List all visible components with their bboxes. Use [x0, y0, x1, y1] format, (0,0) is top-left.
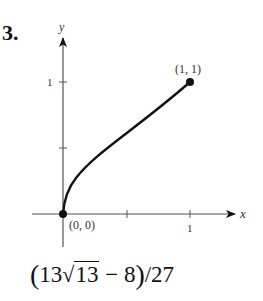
graph: x y 1 1 (0, 0) (1, 1) — [0, 0, 263, 250]
radical-sign: √ — [62, 262, 74, 287]
label-end: (1, 1) — [175, 62, 201, 76]
arc-length-answer: (13√13 − 8)/27 — [30, 259, 174, 291]
open-paren: ( — [30, 259, 39, 290]
x-axis-label: x — [239, 206, 246, 221]
point-end — [186, 78, 194, 86]
curve — [63, 82, 190, 214]
radicand: 13 — [74, 261, 99, 287]
y-tick-label-1: 1 — [47, 76, 53, 88]
point-origin — [59, 210, 67, 218]
x-tick-label-1: 1 — [187, 222, 193, 234]
y-axis-label: y — [58, 20, 65, 34]
close-paren: ) — [135, 259, 144, 290]
coefficient: 13 — [39, 262, 62, 287]
minus-term: − 8 — [99, 262, 135, 287]
square-root: √13 — [62, 262, 99, 288]
label-origin: (0, 0) — [69, 218, 95, 232]
divisor: /27 — [145, 262, 174, 287]
